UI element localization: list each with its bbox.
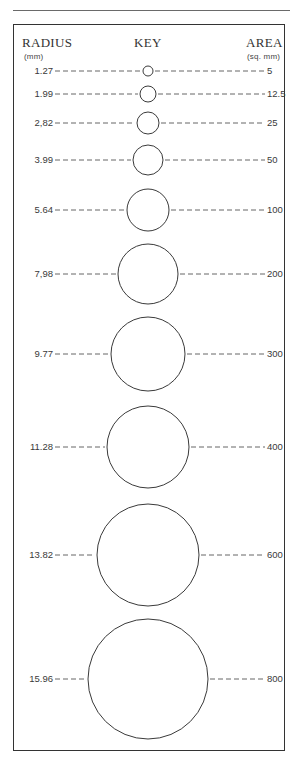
key-circle [107,406,189,488]
radius-label: 5.64 [13,205,53,215]
area-label: 50 [267,155,278,165]
area-label: 12.5 [267,89,286,99]
key-circle [140,86,156,102]
key-circle [143,66,153,76]
key-circle [118,244,178,304]
key-circle [133,145,163,175]
radius-label: 1.27 [13,66,53,76]
key-diagram [0,0,290,760]
key-circle [137,112,159,134]
radius-label: 1.99 [13,89,53,99]
radius-label: 9.77 [13,349,53,359]
area-label: 25 [267,118,278,128]
key-circle [127,189,169,231]
key-circle [111,317,185,391]
radius-label: 11.28 [13,442,53,452]
area-label: 600 [267,550,283,560]
key-circle [97,504,199,606]
area-label: 200 [267,269,283,279]
area-label: 400 [267,442,283,452]
radius-label: 15.96 [13,674,53,684]
area-label: 5 [267,66,272,76]
radius-label: 7,98 [13,269,53,279]
area-label: 800 [267,674,283,684]
key-rows [55,66,265,739]
area-label: 100 [267,205,283,215]
radius-label: 13.82 [13,550,53,560]
radius-label: 2,82 [13,118,53,128]
radius-label: 3.99 [13,155,53,165]
key-circle [88,619,208,739]
area-label: 300 [267,349,283,359]
